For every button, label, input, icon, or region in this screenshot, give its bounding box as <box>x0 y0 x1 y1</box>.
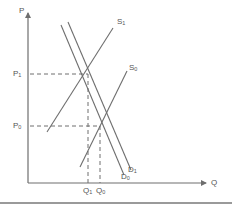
quantity-label-sub: 1 <box>89 189 92 195</box>
x-axis-label: Q <box>211 179 217 187</box>
curve-label-s1: S1 <box>117 18 125 27</box>
price-label-p1: P1 <box>13 70 21 79</box>
bottom-divider <box>0 202 232 204</box>
curve-label-sub: 1 <box>122 20 125 26</box>
supply-curve-s0 <box>80 71 127 167</box>
curve-label-sub: 0 <box>127 175 130 181</box>
y-axis-label: P <box>19 7 24 15</box>
price-label-p0: P0 <box>13 122 21 131</box>
quantity-label-sub: 0 <box>102 189 105 195</box>
curve-label-d1: D1 <box>128 166 137 175</box>
supply-demand-diagram <box>0 0 232 208</box>
demand-curve-d0 <box>61 25 124 175</box>
supply-curve-s1 <box>47 28 113 132</box>
quantity-label-q0: Q0 <box>96 187 105 196</box>
curve-label-sub: 0 <box>134 66 137 72</box>
curve-label-s0: S0 <box>129 64 137 73</box>
price-label-sub: 1 <box>18 72 21 78</box>
quantity-label-q1: Q1 <box>83 187 92 196</box>
price-label-sub: 0 <box>18 124 21 130</box>
curve-label-sub: 1 <box>134 168 137 174</box>
